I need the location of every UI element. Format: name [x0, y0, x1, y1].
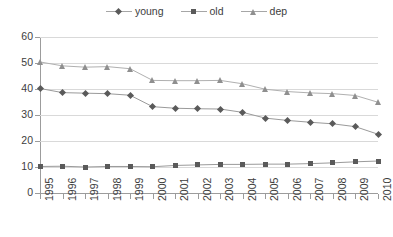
x-axis-tick-label: 2003	[224, 178, 235, 201]
x-axis-tick	[378, 194, 379, 199]
legend-entry-old[interactable]: old	[181, 6, 224, 17]
y-axis-tick-label: 40	[3, 83, 33, 94]
marker-square-icon	[240, 162, 245, 167]
marker-triangle-icon	[329, 91, 335, 97]
legend-label: young	[135, 6, 164, 17]
marker-square-icon	[38, 164, 43, 169]
marker-square-icon	[330, 160, 335, 165]
series-lines	[40, 37, 378, 193]
marker-square-icon	[128, 164, 133, 169]
x-axis-tick-label: 2009	[359, 178, 370, 201]
x-axis-tick	[175, 194, 176, 199]
y-axis-tick-label: 30	[3, 109, 33, 120]
marker-triangle-icon	[59, 63, 65, 69]
marker-square-icon	[263, 162, 268, 167]
legend-label: dep	[270, 6, 288, 17]
x-axis-tick-label: 2001	[179, 178, 190, 201]
y-axis-tick-label: 10	[3, 161, 33, 172]
legend-marker-triangle-icon	[241, 7, 267, 17]
x-axis-tick	[130, 194, 131, 199]
marker-triangle-icon	[104, 64, 110, 70]
y-axis-tick-label: 20	[3, 135, 33, 146]
x-axis-tick	[243, 194, 244, 199]
marker-square-icon	[285, 162, 290, 167]
marker-triangle-icon	[37, 59, 43, 65]
x-axis-tick	[108, 194, 109, 199]
y-axis-tick-label: 50	[3, 57, 33, 68]
marker-triangle-icon	[149, 77, 155, 83]
line-chart: youngolddep 0102030405060 19951996199719…	[0, 0, 393, 237]
plot-area	[40, 37, 378, 193]
x-axis-tick-label: 1996	[67, 178, 78, 201]
x-axis-tick	[85, 194, 86, 199]
marker-square-icon	[195, 162, 200, 167]
x-axis-tick	[198, 194, 199, 199]
marker-square-icon	[353, 159, 358, 164]
x-axis-tick-label: 2010	[382, 178, 393, 201]
x-axis-tick-label: 2008	[337, 178, 348, 201]
x-axis-tick	[333, 194, 334, 199]
x-axis-tick-label: 2004	[247, 178, 258, 201]
series-line-old	[40, 161, 378, 167]
marker-triangle-icon	[127, 66, 133, 72]
x-axis-tick	[220, 194, 221, 199]
marker-triangle-icon	[375, 99, 381, 105]
chart-legend: youngolddep	[0, 6, 393, 17]
x-axis-tick-label: 2007	[314, 178, 325, 201]
marker-triangle-icon	[82, 64, 88, 70]
marker-triangle-icon	[217, 77, 223, 83]
x-axis-tick-label: 1995	[44, 178, 55, 201]
marker-square-icon	[308, 161, 313, 166]
x-axis-tick-label: 1999	[134, 178, 145, 201]
y-axis-tick-label: 60	[3, 31, 33, 42]
legend-entry-young[interactable]: young	[106, 6, 164, 17]
x-axis-tick-label: 1997	[89, 178, 100, 201]
marker-square-icon	[150, 164, 155, 169]
marker-square-icon	[105, 164, 110, 169]
series-line-young	[40, 88, 378, 134]
x-axis-tick	[40, 194, 41, 199]
x-axis-tick	[355, 194, 356, 199]
legend-entry-dep[interactable]: dep	[241, 6, 288, 17]
legend-marker-diamond-icon	[106, 7, 132, 17]
legend-marker-square-icon	[181, 7, 207, 17]
x-axis-tick-label: 1998	[112, 178, 123, 201]
marker-square-icon	[173, 163, 178, 168]
marker-triangle-icon	[352, 93, 358, 99]
x-axis-tick-label: 2005	[269, 178, 280, 201]
x-axis-tick-label: 2002	[202, 178, 213, 201]
marker-square-icon	[60, 164, 65, 169]
marker-square-icon	[83, 165, 88, 170]
marker-triangle-icon	[262, 86, 268, 92]
marker-triangle-icon	[194, 78, 200, 84]
y-axis-tick-label: 0	[3, 187, 33, 198]
x-axis-tick	[310, 194, 311, 199]
x-axis-tick-label: 2000	[157, 178, 168, 201]
marker-triangle-icon	[239, 81, 245, 87]
x-axis-tick	[265, 194, 266, 199]
x-axis-tick	[63, 194, 64, 199]
marker-square-icon	[376, 159, 381, 164]
x-axis-tick	[153, 194, 154, 199]
marker-square-icon	[218, 162, 223, 167]
marker-triangle-icon	[307, 90, 313, 96]
x-axis-tick-label: 2006	[292, 178, 303, 201]
x-axis-tick	[288, 194, 289, 199]
marker-triangle-icon	[172, 78, 178, 84]
series-line-dep	[40, 62, 378, 102]
legend-label: old	[210, 6, 224, 17]
marker-triangle-icon	[284, 89, 290, 95]
